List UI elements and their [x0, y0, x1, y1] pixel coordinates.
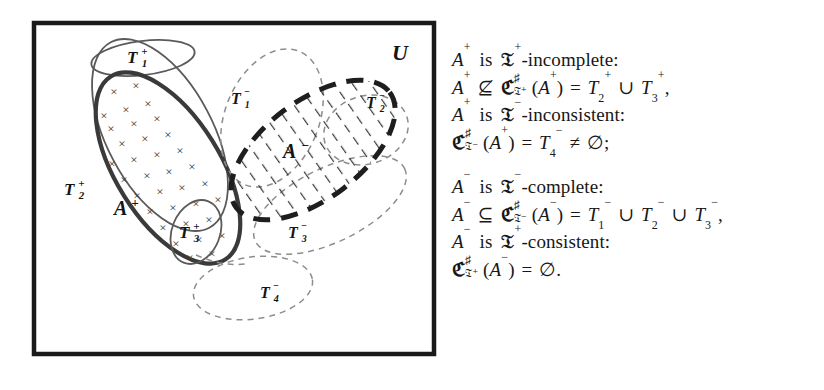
svg-text:×: × — [130, 116, 137, 131]
svg-text:×: × — [165, 164, 172, 179]
label-t1-plus: T 1+ — [127, 45, 147, 69]
formula-line-2: A+⊈ℭ♯𝔗⁺(A+) = T2+ ∪ T3+, — [452, 74, 820, 102]
svg-text:×: × — [205, 212, 212, 227]
svg-text:×: × — [153, 147, 160, 162]
label-t2-plus: T 2+ — [64, 177, 85, 201]
svg-text:×: × — [107, 121, 114, 136]
svg-text:×: × — [159, 220, 166, 235]
svg-text:×: × — [130, 152, 137, 167]
formula-line-8: ℭ♯𝔗⁺(A−) = ∅. — [452, 256, 820, 284]
svg-text:×: × — [192, 196, 199, 211]
svg-text:×: × — [118, 136, 125, 151]
svg-text:×: × — [143, 168, 150, 183]
label-universe: U — [392, 40, 409, 65]
svg-text:×: × — [110, 84, 117, 99]
formula-line-6: A−⊆ℭ♯𝔗⁻(A−) = T1− ∪ T2− ∪ T3−, — [452, 201, 820, 229]
svg-text:×: × — [156, 184, 163, 199]
venn-diagram: × × × × × × × × × × × × × × × × × × × × … — [0, 0, 450, 390]
formula-line-4: ℭ♯𝔗⁻(A+) = T4− ≠ ∅; — [452, 129, 820, 157]
formula-line-1: A+is𝔗+-incomplete: — [452, 46, 820, 74]
svg-text:×: × — [214, 192, 221, 207]
svg-text:×: × — [201, 176, 208, 191]
label-t3-plus: T 3+ — [179, 220, 200, 244]
figure-root: × × × × × × × × × × × × × × × × × × × × … — [0, 0, 824, 390]
svg-text:×: × — [188, 159, 195, 174]
svg-text:×: × — [146, 204, 153, 219]
svg-text:×: × — [144, 96, 151, 111]
formula-line-5: A−is𝔗−-complete: — [452, 173, 820, 201]
svg-text:×: × — [132, 78, 139, 93]
svg-text:×: × — [122, 102, 129, 117]
svg-text:×: × — [164, 127, 171, 142]
svg-text:×: × — [176, 143, 183, 158]
svg-text:×: × — [153, 111, 160, 126]
svg-text:×: × — [169, 200, 176, 215]
formula-block: A+is𝔗+-incomplete: A+⊈ℭ♯𝔗⁺(A+) = T2+ ∪ T… — [452, 46, 820, 283]
svg-text:×: × — [120, 172, 127, 187]
svg-text:×: × — [178, 180, 185, 195]
svg-text:×: × — [141, 131, 148, 146]
